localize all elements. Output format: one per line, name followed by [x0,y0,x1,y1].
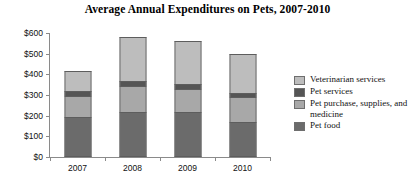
bar-segment [229,122,256,157]
y-axis-tick [46,33,50,34]
bar-segment [64,71,91,90]
legend-label: Pet food [310,120,340,131]
legend-swatch [294,88,305,97]
stacked-bar [229,54,256,157]
legend-label: Pet services [310,86,353,97]
y-axis-label: $100 [24,131,43,141]
x-axis-tick [105,157,106,161]
legend-label: Veterinarian services [310,74,385,85]
x-axis-label: 2007 [68,163,87,173]
bar-segment [174,89,201,112]
bar-segment [174,41,201,84]
legend-item: Pet services [294,86,415,97]
x-axis-label: 2008 [123,163,142,173]
bar-segment [174,112,201,157]
y-axis-tick [46,136,50,137]
legend-item: Pet purchase, supplies, and medicine [294,98,415,119]
chart-title: Average Annual Expenditures on Pets, 200… [0,3,415,15]
stacked-bar [64,71,91,157]
x-axis-tick [215,157,216,161]
stacked-bar [119,37,146,157]
plot-area: $0$100$200$300$400$500$600 2007200820092… [50,33,270,157]
bar-segment [119,37,146,81]
x-axis-label: 2009 [178,163,197,173]
y-axis-label: $500 [24,49,43,59]
y-axis-label: $0 [34,152,43,162]
y-axis-label: $300 [24,90,43,100]
x-axis-tick [160,157,161,161]
legend-item: Pet food [294,120,415,131]
legend-swatch [294,76,305,85]
y-axis-label: $200 [24,111,43,121]
stacked-bar [174,41,201,157]
y-axis-tick [46,95,50,96]
x-axis-label: 2010 [233,163,252,173]
y-axis-tick [46,116,50,117]
bar-segment [229,54,256,93]
y-axis-label: $600 [24,28,43,38]
x-axis-tick [50,157,51,161]
legend-swatch [294,122,305,131]
bar-segment [119,86,146,112]
bar-segment [64,96,91,117]
legend-label: Pet purchase, supplies, and medicine [310,98,415,119]
bar-segment [119,112,146,157]
y-axis-tick [46,74,50,75]
x-axis-tick [270,157,271,161]
chart-legend: Veterinarian servicesPet servicesPet pur… [294,74,415,132]
y-axis-tick [46,54,50,55]
chart-container: Average Annual Expenditures on Pets, 200… [0,0,415,178]
y-axis-label: $400 [24,69,43,79]
legend-swatch [294,100,305,109]
bar-segment [229,97,256,122]
legend-item: Veterinarian services [294,74,415,85]
bar-segment [64,117,91,157]
